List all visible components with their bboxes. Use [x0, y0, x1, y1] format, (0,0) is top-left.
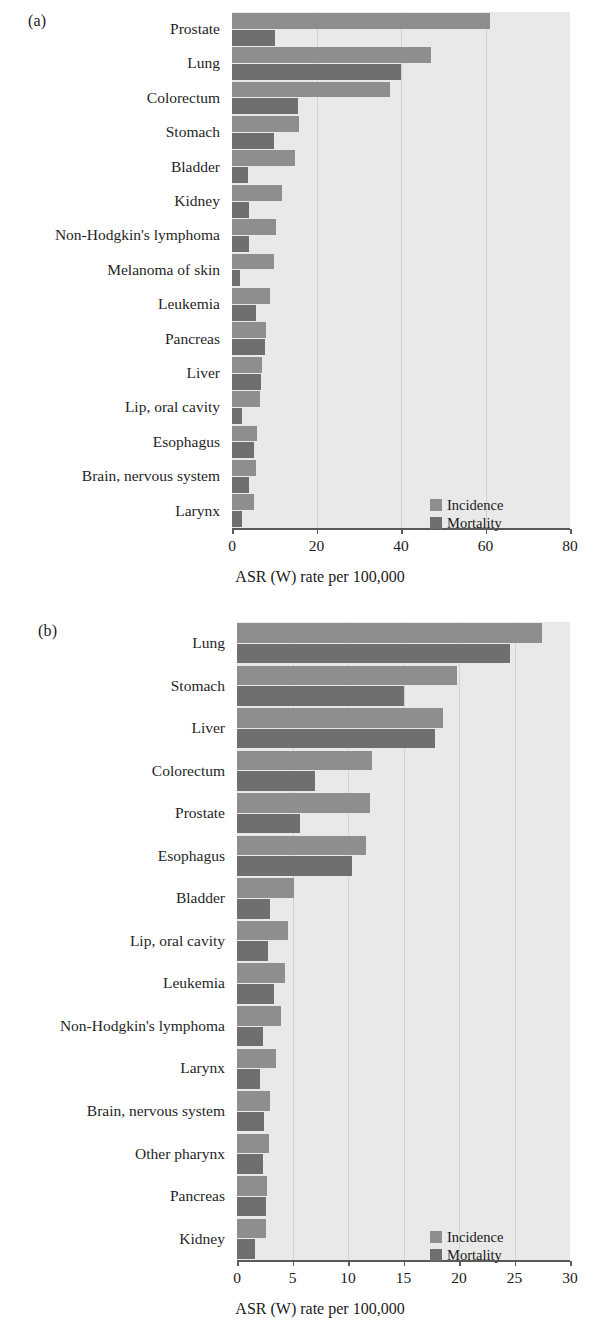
bar-incidence	[237, 963, 285, 983]
panel-a-category-labels: ProstateLungColorectumStomachBladderKidn…	[0, 12, 228, 528]
bar-group	[237, 707, 570, 750]
legend-label: Mortality	[447, 516, 502, 531]
bar-mortality	[232, 167, 248, 183]
category-label: Prostate	[0, 792, 225, 835]
category-label: Larynx	[0, 1047, 225, 1090]
bar-group	[237, 835, 570, 878]
bar-mortality	[237, 814, 300, 834]
bar-incidence	[232, 150, 295, 166]
axis-tick-label: 20	[451, 1269, 467, 1287]
bar-spacer	[237, 1026, 570, 1027]
bar-group	[237, 962, 570, 1005]
bar-mortality	[237, 941, 268, 961]
bar-mortality	[237, 1197, 266, 1217]
bar-mortality	[232, 30, 275, 46]
panel-a-legend: IncidenceMortality	[430, 498, 503, 530]
axis-tick-label: 60	[478, 537, 494, 555]
bar-mortality	[237, 1112, 264, 1132]
bar-group	[232, 253, 570, 287]
bar-incidence	[237, 1006, 281, 1026]
axis-tick-label: 0	[228, 537, 236, 555]
bar-incidence	[237, 836, 366, 856]
axis-tick	[293, 1261, 295, 1266]
axis-tick-label: 15	[396, 1269, 412, 1287]
category-label: Leukemia	[0, 962, 225, 1005]
legend-item: Mortality	[430, 1248, 503, 1263]
axis-tick-label: 10	[340, 1269, 356, 1287]
category-label: Stomach	[0, 665, 225, 708]
category-label: Bladder	[0, 150, 220, 184]
bar-incidence	[232, 116, 299, 132]
bar-incidence	[237, 751, 372, 771]
axis-tick	[515, 1261, 517, 1266]
bar-mortality	[237, 729, 435, 749]
panel-b-category-labels: LungStomachLiverColorectumProstateEsopha…	[0, 622, 233, 1260]
category-label: Bladder	[0, 877, 225, 920]
category-label: Kidney	[0, 184, 220, 218]
bar-spacer	[237, 1238, 570, 1239]
bar-spacer	[237, 940, 570, 941]
bar-mortality	[232, 408, 242, 424]
bar-spacer	[232, 235, 570, 236]
bar-mortality	[237, 1027, 263, 1047]
bar-spacer	[232, 29, 570, 30]
bar-mortality	[237, 1239, 255, 1259]
axis-tick-label: 0	[233, 1269, 241, 1287]
panel-b-axis-title: ASR (W) rate per 100,000	[60, 1300, 580, 1318]
category-label: Liver	[0, 356, 220, 390]
axis-tick-label: 30	[562, 1269, 578, 1287]
bar-incidence	[232, 185, 282, 201]
legend-swatch-icon	[430, 1231, 442, 1243]
bar-incidence	[237, 1091, 270, 1111]
bar-group	[232, 390, 570, 424]
bar-group	[237, 750, 570, 793]
axis-tick-label: 20	[309, 537, 325, 555]
bar-incidence	[232, 460, 256, 476]
bar-incidence	[232, 219, 276, 235]
category-label: Colorectum	[0, 81, 220, 115]
bar-mortality	[237, 1069, 260, 1089]
bar-group	[232, 425, 570, 459]
bar-group	[232, 115, 570, 149]
bar-group	[237, 1132, 570, 1175]
bar-incidence	[237, 1176, 267, 1196]
category-label: Liver	[0, 707, 225, 750]
bar-mortality	[232, 511, 242, 527]
bar-mortality	[232, 374, 261, 390]
bar-incidence	[237, 793, 370, 813]
bar-mortality	[237, 856, 352, 876]
axis-tick	[404, 1261, 406, 1266]
category-label: Stomach	[0, 115, 220, 149]
legend-swatch-icon	[430, 1249, 442, 1261]
figure-root: (a) ProstateLungColorectumStomachBladder…	[0, 0, 598, 1334]
legend-label: Mortality	[447, 1248, 502, 1263]
legend-swatch-icon	[430, 517, 442, 529]
category-label: Lung	[0, 46, 220, 80]
bar-group	[237, 1005, 570, 1048]
axis-tick-label: 25	[507, 1269, 523, 1287]
bar-group	[232, 494, 570, 528]
bar-group	[237, 1047, 570, 1090]
chart-panel-b: (b) LungStomachLiverColorectumProstateEs…	[0, 610, 598, 1334]
bar-spacer	[237, 1068, 570, 1069]
panel-b-legend: IncidenceMortality	[430, 1230, 503, 1262]
legend-label: Incidence	[447, 1230, 503, 1245]
axis-tick	[232, 529, 234, 534]
bar-group	[232, 287, 570, 321]
bar-group	[232, 46, 570, 80]
panel-a-axis-title: ASR (W) rate per 100,000	[60, 568, 580, 586]
category-label: Esophagus	[0, 835, 225, 878]
bar-spacer	[232, 510, 570, 511]
category-label: Pancreas	[0, 322, 220, 356]
bar-spacer	[237, 1196, 570, 1197]
bar-spacer	[237, 1153, 570, 1154]
bar-group	[232, 459, 570, 493]
bar-incidence	[232, 494, 254, 510]
category-label: Lip, oral cavity	[0, 920, 225, 963]
category-label: Larynx	[0, 493, 220, 527]
panel-b-plot-area	[237, 622, 570, 1260]
bar-incidence	[232, 47, 431, 63]
bar-spacer	[232, 476, 570, 477]
bar-group	[237, 1217, 570, 1260]
category-label: Kidney	[0, 1217, 225, 1260]
